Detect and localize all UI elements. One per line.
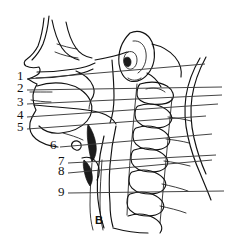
label-number-8: 8 [58, 163, 65, 178]
label-number-5: 5 [17, 119, 24, 134]
label-number-2: 2 [17, 80, 24, 95]
label-number-6: 6 [50, 137, 57, 152]
figure-background [0, 0, 236, 241]
figure-letter-label: B [95, 214, 103, 226]
label-number-9: 9 [58, 184, 65, 199]
anatomical-figure: 1 2 3 4 5 6 7 8 9 B [0, 0, 236, 241]
lateral-head-neck-diagram: 1 2 3 4 5 6 7 8 9 B [0, 0, 236, 241]
